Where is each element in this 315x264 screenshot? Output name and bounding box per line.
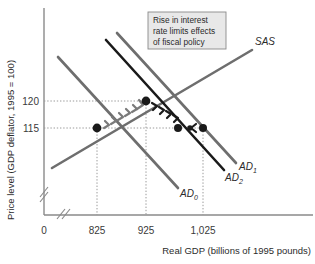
- x-tick-1025: 1,025: [190, 225, 215, 236]
- x-axis-title: Real GDP (billions of 1995 pounds): [162, 245, 311, 256]
- point-intermediate: [174, 124, 182, 132]
- point-initial-equilibrium: [93, 124, 102, 133]
- curves: [52, 33, 252, 188]
- callout-line-3: of fiscal policy: [153, 37, 205, 47]
- y-tick-120: 120: [22, 96, 39, 107]
- curve-label-ad2-sub: 2: [238, 178, 243, 185]
- curve-label-sas: SAS: [255, 36, 275, 47]
- callout-line-2: rate limits effects: [153, 26, 215, 36]
- y-axis-title: Price level (GDP deflator, 1995 = 100): [5, 60, 16, 220]
- y-tick-labels: 120 115: [22, 96, 39, 134]
- curve-label-ad1-text: AD: [238, 161, 253, 172]
- curve-label-ad1: AD1: [238, 161, 257, 174]
- x-tick-825: 825: [89, 225, 106, 236]
- callout-annotation: Rise in interest rate limits effects of …: [148, 12, 226, 49]
- point-ad2-endpoint: [199, 124, 207, 132]
- curve-label-ad2-text: AD: [224, 172, 239, 183]
- curve-label-ad0: AD0: [179, 188, 198, 201]
- x-tick-labels: 0 825 925 1,025: [41, 225, 216, 236]
- x-axis-break-mark: [57, 209, 70, 219]
- callout-line-1: Rise in interest: [153, 15, 209, 25]
- curve-label-ad0-text: AD: [179, 188, 194, 199]
- curve-sas: [52, 50, 252, 168]
- curve-ad2: [106, 40, 224, 170]
- point-small-marker: [187, 125, 193, 131]
- y-tick-115: 115: [23, 123, 39, 134]
- x-tick-0: 0: [41, 225, 47, 236]
- economics-ad-sas-chart: Rise in interest rate limits effects of …: [0, 0, 315, 264]
- curve-label-ad1-sub: 1: [253, 167, 257, 174]
- x-tick-925: 925: [138, 225, 155, 236]
- point-ad1-sas-equilibrium: [142, 97, 151, 106]
- curve-ad0: [58, 57, 178, 188]
- curve-label-ad2: AD2: [224, 172, 243, 185]
- curve-label-ad0-sub: 0: [194, 194, 198, 201]
- curve-ad1: [117, 33, 236, 163]
